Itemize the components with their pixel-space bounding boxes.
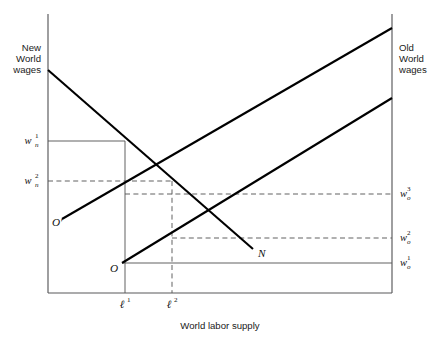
curve-label-o: O xyxy=(110,262,118,274)
wo3-superscript: 3 xyxy=(407,185,411,193)
left-wage-label-wn1: w n 1 xyxy=(24,132,39,149)
wn2-superscript: 2 xyxy=(35,172,39,180)
right-axis-title-line-2: World xyxy=(399,53,424,64)
wo2-subscript: o xyxy=(407,238,411,246)
figure-container: New World wages Old World wages w n 1 w … xyxy=(0,0,440,346)
right-wage-label-wo2: w o 2 xyxy=(400,229,411,246)
l2-base: ℓ xyxy=(167,298,172,310)
right-axis-title-line-3: wages xyxy=(398,64,427,75)
left-wage-label-wn2: w n 2 xyxy=(24,172,39,189)
wo2-superscript: 2 xyxy=(407,229,411,237)
x-tick-label-l1: ℓ 1 xyxy=(120,296,131,310)
curve-old-world-supply-O-prime xyxy=(62,28,392,219)
curve-label-o-prime: O′ xyxy=(52,216,63,228)
wn1-base: w xyxy=(24,135,31,146)
l1-base: ℓ xyxy=(120,298,125,310)
x-axis-caption: World labor supply xyxy=(180,320,259,331)
l1-superscript: 1 xyxy=(127,296,131,304)
world-labor-supply-diagram: New World wages Old World wages w n 1 w … xyxy=(0,0,440,346)
curve-new-world-demand-N xyxy=(48,70,253,249)
curves xyxy=(48,28,392,263)
curve-label-n: N xyxy=(257,247,266,259)
wo2-base: w xyxy=(400,232,407,243)
reference-lines xyxy=(48,141,392,293)
wo1-subscript: o xyxy=(407,263,411,271)
x-tick-label-l2: ℓ 2 xyxy=(167,296,178,310)
left-axis-title-line-2: World xyxy=(16,53,41,64)
wn2-subscript: n xyxy=(35,181,39,189)
wo3-subscript: o xyxy=(407,194,411,202)
wo1-base: w xyxy=(400,257,407,268)
wn1-subscript: n xyxy=(35,141,39,149)
axis-frame xyxy=(48,14,392,293)
wo1-superscript: 1 xyxy=(407,254,411,262)
right-axis-title: Old World wages xyxy=(398,42,427,75)
right-wage-label-wo1: w o 1 xyxy=(400,254,411,271)
l2-superscript: 2 xyxy=(174,296,178,304)
left-axis-title: New World wages xyxy=(12,42,41,75)
left-axis-title-line-3: wages xyxy=(12,64,41,75)
right-wage-label-wo3: w o 3 xyxy=(400,185,411,202)
left-axis-title-line-1: New xyxy=(22,42,41,53)
wo3-base: w xyxy=(400,188,407,199)
wn2-base: w xyxy=(24,175,31,186)
right-axis-title-line-1: Old xyxy=(399,42,414,53)
wn1-superscript: 1 xyxy=(35,132,39,140)
